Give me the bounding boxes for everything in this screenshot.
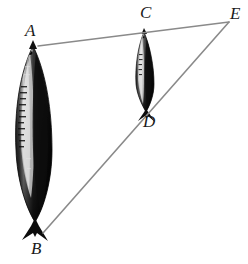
- segment-AE: [38, 22, 229, 46]
- segment-BE: [43, 22, 229, 233]
- geometry-figure: [0, 0, 248, 264]
- diagram-canvas: A B C D E: [0, 0, 248, 264]
- fish-large: [16, 40, 52, 241]
- fish-large-snout: [29, 40, 37, 49]
- vertex-label-d: D: [143, 113, 155, 130]
- vertex-label-e: E: [230, 5, 240, 22]
- fish-large-tail-fin: [22, 218, 48, 241]
- vertex-label-a: A: [25, 22, 35, 39]
- fish-small: [136, 28, 155, 122]
- vertex-label-c: C: [140, 4, 151, 21]
- vertex-label-b: B: [31, 240, 41, 257]
